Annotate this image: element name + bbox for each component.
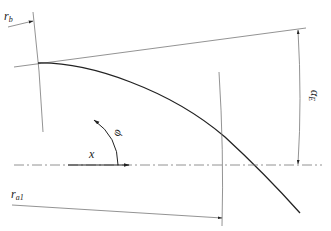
tip-circle-arc [219,72,223,226]
base-circle-arc [33,12,43,132]
alpha-E-dimension-line [298,30,300,164]
r-a1-dimension-line [12,205,222,218]
label-x: x [88,147,95,161]
label-r-a1: ra1 [11,187,24,202]
phi-rotation-arrow [94,120,118,165]
label-phi: φ [109,127,125,138]
label-alpha-E: αE [307,90,322,101]
tangent-line [14,28,306,67]
involute-diagram: rb αE φ x ra1 [0,0,331,231]
label-r-b: rb [4,9,13,24]
involute-curve [38,63,300,213]
